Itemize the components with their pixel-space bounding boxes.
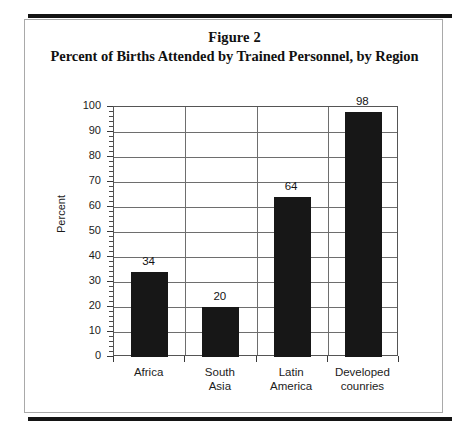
x-tick (113, 356, 114, 362)
y-tick-label: 90 (67, 124, 101, 136)
bar (202, 307, 239, 357)
y-tick-label: 10 (67, 324, 101, 336)
top-rule (28, 14, 452, 18)
x-category-line: America (251, 379, 331, 393)
y-tick-label: 100 (67, 99, 101, 111)
x-tick (184, 356, 185, 362)
bar-value-label: 64 (261, 180, 321, 192)
y-tick-label: 70 (67, 174, 101, 186)
x-category-label: LatinAmerica (251, 365, 331, 393)
x-category-label: Developedcounries (322, 365, 402, 393)
x-tick (256, 356, 257, 362)
bar-value-label: 20 (190, 290, 250, 302)
bar-value-label: 34 (119, 255, 179, 267)
gridline-vertical (328, 107, 329, 355)
bar (131, 272, 168, 357)
gridline-vertical (185, 107, 186, 355)
y-tick-label: 60 (67, 199, 101, 211)
y-axis-title: Percent (55, 174, 67, 254)
x-category-line: Latin (251, 365, 331, 379)
gridline-vertical (257, 107, 258, 355)
y-tick-label: 30 (67, 274, 101, 286)
plot-area (113, 106, 398, 356)
x-category-line: Asia (180, 379, 260, 393)
x-category-label: SouthAsia (180, 365, 260, 393)
y-tick-label: 0 (67, 349, 101, 361)
x-category-line: counries (322, 379, 402, 393)
bar-value-label: 98 (332, 95, 392, 107)
y-tick-label: 20 (67, 299, 101, 311)
x-category-label: Africa (109, 365, 189, 379)
y-tick-label: 80 (67, 149, 101, 161)
x-tick (327, 356, 328, 362)
x-category-line: Africa (109, 365, 189, 379)
bottom-rule (28, 417, 452, 421)
bar (345, 112, 382, 357)
bar-chart: Percent 0102030405060708090100 34206498 … (25, 20, 444, 414)
x-category-line: South (180, 365, 260, 379)
figure-page: Figure 2 Percent of Births Attended by T… (0, 0, 468, 433)
x-category-line: Developed (322, 365, 402, 379)
x-tick (398, 356, 399, 362)
figure-box: Figure 2 Percent of Births Attended by T… (24, 19, 443, 413)
bar (274, 197, 311, 357)
y-tick-label: 50 (67, 224, 101, 236)
y-tick-label: 40 (67, 249, 101, 261)
